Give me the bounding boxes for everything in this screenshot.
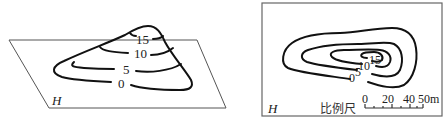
- map-plane-h-label: H: [267, 101, 278, 116]
- scale-tick-40: 40: [403, 92, 415, 106]
- contour-label-5: 5: [123, 62, 130, 77]
- contour-label-15: 15: [136, 32, 149, 47]
- contour-label-10: 10: [134, 46, 147, 61]
- diagram-canvas: 15 10 5 0 H 0 5 10 15 H 比例尺 0 20 40 50m: [0, 0, 445, 130]
- scale-tick-20: 20: [382, 92, 394, 106]
- scale-label: 比例尺: [320, 102, 356, 116]
- plane-h-parallelogram: [9, 40, 226, 108]
- map-frame: [262, 3, 442, 116]
- plane-h-label: H: [51, 93, 62, 108]
- map-contour-label-15: 15: [369, 53, 381, 67]
- right-contour-map-figure: 0 5 10 15 H 比例尺 0 20 40 50m: [262, 3, 442, 116]
- scale-tick-0: 0: [362, 92, 368, 106]
- left-perspective-figure: 15 10 5 0 H: [9, 26, 226, 108]
- scale-tick-50m: 50m: [418, 92, 440, 106]
- contour-label-0: 0: [118, 76, 125, 91]
